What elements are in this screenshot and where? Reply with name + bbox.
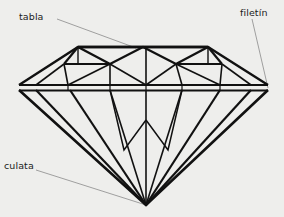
label-culata: culata xyxy=(4,160,34,171)
diamond-diagram xyxy=(0,0,284,217)
pavilion-chevron-left xyxy=(110,90,146,150)
kite-center-right-diagonal xyxy=(146,64,176,85)
bezel-right-to-girdle xyxy=(220,64,222,85)
pavilion-main-right-outer xyxy=(146,90,251,205)
kite-center-left-diagonal xyxy=(110,64,146,85)
crown-group xyxy=(19,47,268,85)
pavilion-group xyxy=(19,90,268,205)
crown-outline xyxy=(19,47,268,85)
diamond-figure: tabla filetín culata xyxy=(0,0,284,217)
label-filetin: filetín xyxy=(240,7,268,18)
bezel-right-outer xyxy=(222,64,251,85)
label-tabla: tabla xyxy=(19,11,44,22)
kite-right-diagonal xyxy=(176,64,220,85)
star-facet-zigzag xyxy=(78,47,208,64)
pavilion-chevron-right xyxy=(146,90,182,150)
pavilion-outline xyxy=(19,90,268,205)
bezel-left-to-girdle xyxy=(64,64,68,85)
kite-left-diagonal xyxy=(68,64,110,85)
tabla-leader-line xyxy=(57,19,136,48)
bezel-left-outer xyxy=(36,64,64,85)
pavilion-main-right-mid xyxy=(146,90,220,205)
